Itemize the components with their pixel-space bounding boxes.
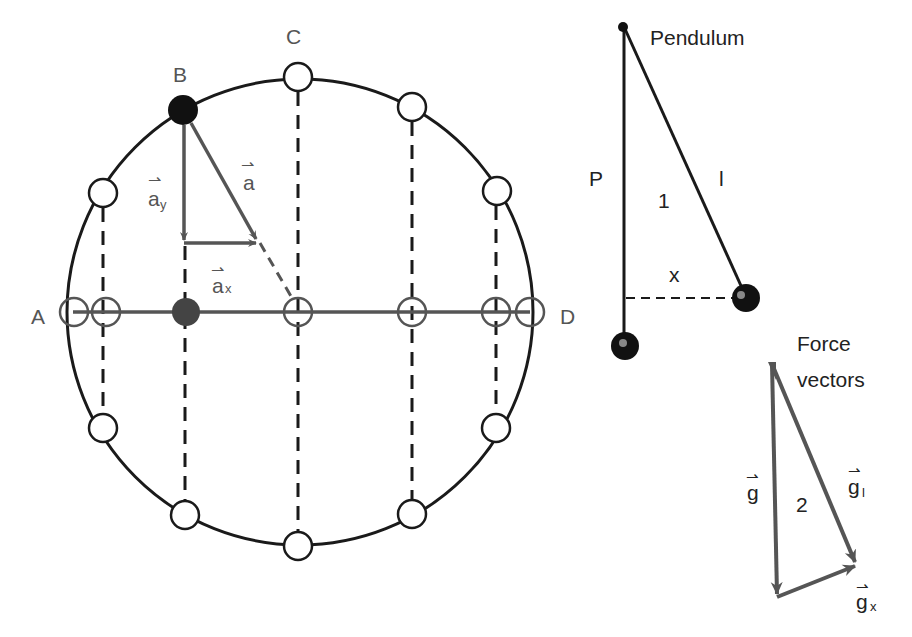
pendulum-bob-swung-highlight: [737, 291, 745, 299]
label-vector-gl: g: [848, 475, 860, 498]
pendulum-swung-string: [625, 29, 742, 288]
force-vectors-title-line1: Force: [797, 332, 851, 355]
vector-g: [772, 364, 777, 594]
label-vector-ay-sub: y: [160, 197, 167, 212]
label-b-point: B: [173, 63, 187, 86]
pendulum-title: Pendulum: [650, 26, 745, 49]
label-vector-gl-sub: l: [862, 485, 865, 500]
uniform-circular-motion-diagram: A B C D ⇀ a ⇀ a y ⇀ a x Pendulum P l 1 x…: [0, 0, 912, 637]
ball-b-filled: [168, 95, 198, 125]
label-vector-gx-sub: x: [870, 599, 877, 614]
pendulum-bob-rest-highlight: [619, 339, 627, 347]
arrow-glyph-ay: ⇀: [148, 171, 161, 188]
label-vector-ax-sub: x: [225, 281, 232, 296]
label-c-point: C: [286, 25, 301, 48]
label-x: x: [669, 263, 680, 286]
label-angle-2: 2: [796, 493, 808, 516]
vector-g-l: [772, 364, 855, 562]
vector-a-extension: [260, 243, 292, 298]
pendulum-diagram: Pendulum P l 1 x: [589, 22, 760, 360]
label-l: l: [719, 167, 724, 190]
force-vectors-title-line2: vectors: [797, 368, 865, 391]
projected-ball-filled: [172, 298, 200, 326]
label-d-point: D: [560, 305, 575, 328]
label-vector-ax: a: [212, 274, 224, 297]
circle-diagram: A B C D ⇀ a ⇀ a y ⇀ a x: [31, 25, 575, 560]
label-p: P: [589, 167, 603, 190]
label-a-point: A: [31, 305, 45, 328]
force-vectors-diagram: Force vectors ⇀ g 2 ⇀ g l ⇀ g x: [746, 332, 877, 614]
label-vector-ay: a: [148, 187, 160, 210]
label-angle-1: 1: [658, 189, 670, 212]
pendulum-pivot: [618, 22, 628, 32]
label-vector-gx: g: [856, 590, 868, 613]
label-vector-a: a: [243, 171, 255, 194]
pendulum-bob-swung: [732, 284, 760, 312]
vector-g-x: [777, 566, 855, 597]
label-vector-g: g: [747, 481, 759, 504]
